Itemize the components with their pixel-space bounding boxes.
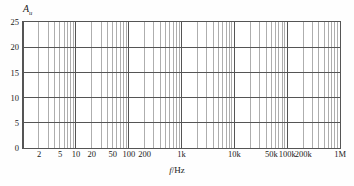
y-tick-label: 25 [11, 18, 20, 27]
x-tick-label: 100 [122, 150, 135, 159]
grid-svg [23, 22, 340, 148]
x-tick-label: 1k [177, 150, 186, 159]
x-tick-label: 2 [37, 150, 41, 159]
x-tick-label: 20 [88, 150, 97, 159]
y-axis-label: Au [23, 4, 32, 17]
plot-area [22, 21, 341, 149]
y-axis-label-subscript: u [29, 9, 32, 16]
y-tick-label: 20 [11, 43, 20, 52]
x-tick-label: 200k [295, 150, 312, 159]
y-tick-label: 10 [11, 93, 20, 102]
x-tick-label: 200 [138, 150, 151, 159]
x-axis-title-unit: /Hz [172, 165, 185, 175]
x-tick-label: 50 [109, 150, 118, 159]
x-tick-label: 1M [334, 150, 346, 159]
y-tick-label: 5 [15, 119, 19, 128]
x-axis-tick-labels: 251020501002001k10k50k100k200k1M [0, 150, 354, 164]
x-tick-label: 5 [58, 150, 62, 159]
y-tick-label: 15 [11, 68, 20, 77]
x-tick-label: 50k [265, 150, 278, 159]
x-axis-title: f/Hz [0, 166, 354, 175]
chart-figure: Au 0510152025 251020501002001k10k50k100k… [0, 0, 354, 186]
x-tick-label: 10k [228, 150, 241, 159]
x-tick-label: 100k [279, 150, 296, 159]
x-tick-label: 10 [72, 150, 81, 159]
